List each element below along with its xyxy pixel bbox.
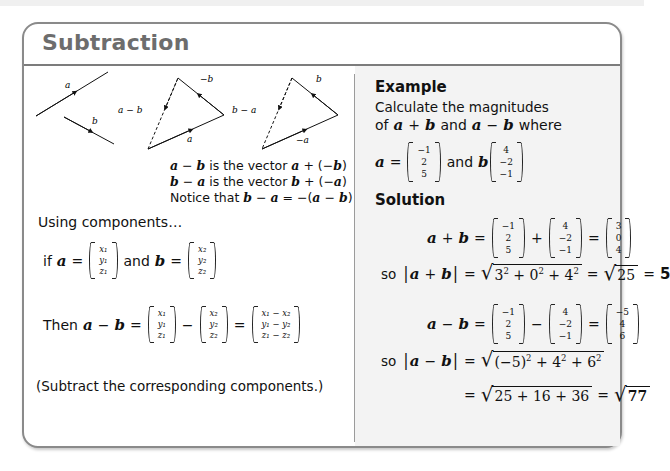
if-equals: = <box>67 253 89 269</box>
sum-mag-radicand-2: 25 <box>615 265 638 283</box>
note-line-3: Notice that b − a = −(a − b) <box>170 190 353 206</box>
then-op-minus: − <box>177 317 199 333</box>
given-equals: = <box>385 154 407 170</box>
given-b-vector: 4 −2 −1 <box>490 142 523 182</box>
diff-cont-equals-2: = <box>592 387 614 403</box>
sum-mag-so: so <box>381 266 402 282</box>
example-b2: b <box>503 116 514 134</box>
diff-mag-minus: − <box>419 353 441 369</box>
example-line-2: of a + b and a − b where <box>375 116 567 134</box>
if-a-comp-2: z₁ <box>99 266 107 277</box>
diff-equals: = <box>469 316 491 332</box>
sum-magnitude-equation: so | a + b | = √ 32 + 02 + 42 = √ 25 <box>381 264 670 283</box>
example-of: of <box>375 117 394 133</box>
radical-sign-icon-3: √ <box>481 352 494 371</box>
then-result-comp-0: x₁ − x₂ <box>262 308 291 319</box>
diagram-a-minus-b: a −b a − b <box>118 74 224 149</box>
example-b: b <box>425 116 436 134</box>
diff-equals-2: = <box>583 316 605 332</box>
radical-sign-icon-5: √ <box>614 387 627 405</box>
diff-result-comp-1: 4 <box>620 318 626 330</box>
then-result-comp-1: y₁ − y₂ <box>262 319 291 330</box>
page-top-edge <box>0 0 644 6</box>
given-b-comp-0: 4 <box>503 144 509 156</box>
given-b-comp-1: −2 <box>500 156 513 168</box>
sum-result-vector: 3 0 4 <box>606 218 632 258</box>
sum-mag-plus: + <box>419 266 441 282</box>
note-line-2: b − a is the vector b + (−a) <box>170 174 353 190</box>
sum-op: + <box>526 230 548 246</box>
then-minus: − <box>93 317 115 333</box>
diff-cont-sqrt: √ 25 + 16 + 36 <box>481 386 592 404</box>
example-and: and <box>435 117 471 133</box>
if-a-vector: x₁ y₁ z₁ <box>89 242 117 279</box>
example-a: a <box>394 116 404 134</box>
svg-text:a − b: a − b <box>118 105 143 115</box>
diff-result-comp-0: −5 <box>616 306 629 318</box>
diff-result-vector: −5 4 6 <box>606 304 639 344</box>
if-b-comp-1: y₂ <box>198 255 206 266</box>
then-result-vector: x₁ − x₂ y₁ − y₂ z₁ − z₂ <box>252 306 301 343</box>
if-b-comp-0: x₂ <box>198 244 206 255</box>
svg-text:b: b <box>92 116 98 126</box>
diagram-separate-vectors: a b <box>36 72 114 144</box>
svg-text:a: a <box>65 80 70 90</box>
subtraction-card: Subtraction <box>22 22 622 448</box>
sum-result-comp-1: 0 <box>616 232 622 244</box>
sum-mag-sqrt-2: √ 25 <box>604 265 639 283</box>
diff-a-comp-0: −1 <box>502 306 515 318</box>
diff-minus: − <box>437 316 459 332</box>
then-b-comp-0: x₂ <box>210 308 218 319</box>
svg-text:b − a: b − a <box>232 105 256 115</box>
if-b-vector: x₂ y₂ z₂ <box>188 242 216 279</box>
sum-mag-abs-close: | <box>452 264 459 283</box>
right-column: Example Calculate the magnitudes of a + … <box>355 66 620 446</box>
diff-mag-t1: 4 <box>552 354 561 370</box>
sum-mag-abs-open: | <box>402 264 409 283</box>
diff-mag-equals: = <box>459 353 481 369</box>
diff-cont-result: 77 <box>626 386 650 404</box>
if-b-symbol: b <box>155 252 166 270</box>
example-heading: Example <box>375 78 447 96</box>
solution-heading: Solution <box>375 191 445 209</box>
diff-a-comp-1: 2 <box>505 318 511 330</box>
sum-result-comp-2: 4 <box>616 244 622 256</box>
diff-mag-abs-close: | <box>452 351 459 370</box>
then-equation: Then a − b = x₁ y₁ z₁ − <box>38 306 301 343</box>
then-b-comp-2: z₂ <box>210 330 218 341</box>
sum-mag-equals-3: = <box>638 266 660 282</box>
radical-sign-icon-2: √ <box>604 266 617 284</box>
vector-diagrams: a b a <box>32 68 354 156</box>
diff-magnitude-continued: = √ 25 + 16 + 36 = √ 77 <box>459 386 650 404</box>
card-body: a b a <box>24 66 620 446</box>
if-a-comp-1: y₁ <box>99 255 107 266</box>
then-a-comp-2: z₁ <box>158 330 166 341</box>
sum-a-comp-2: 5 <box>505 244 511 256</box>
sum-mag-equals-2: = <box>582 266 604 282</box>
given-a-comp-1: 2 <box>421 156 427 168</box>
sum-a-comp-0: −1 <box>502 220 515 232</box>
then-a-vector: x₁ y₁ z₁ <box>148 306 176 343</box>
diff-cont-radicand: 25 + 16 + 36 <box>492 386 592 404</box>
subtraction-notes: a − b is the vector a + (−b) b − a is th… <box>170 158 353 206</box>
diff-mag-a: a <box>410 352 420 370</box>
svg-text:−b: −b <box>200 74 214 84</box>
diagram-b-minus-a: −a b b − a <box>232 74 338 149</box>
sum-result-comp-0: 3 <box>616 220 622 232</box>
given-a-comp-0: −1 <box>417 144 430 156</box>
given-a-symbol: a <box>375 153 385 171</box>
diff-mag-b: b <box>441 352 452 370</box>
given-a-vector: −1 2 5 <box>407 142 440 182</box>
example-line-1: Calculate the magnitudes <box>375 99 549 115</box>
sum-a-vector: −1 2 5 <box>492 218 525 258</box>
card-title-bar: Subtraction <box>24 24 620 66</box>
diff-mag-sqrt: √ (−5)2 + 42 + 62 <box>481 351 605 370</box>
sum-plus: + <box>437 230 459 246</box>
sum-b-vector: 4 −2 −1 <box>549 218 582 258</box>
example-a2: a <box>472 116 482 134</box>
diff-a-comp-2: 5 <box>505 330 511 342</box>
svg-text:−a: −a <box>296 135 309 145</box>
given-and: and <box>442 154 478 170</box>
using-components-label: Using components… <box>38 214 182 230</box>
then-result-comp-2: z₁ − z₂ <box>262 330 290 341</box>
